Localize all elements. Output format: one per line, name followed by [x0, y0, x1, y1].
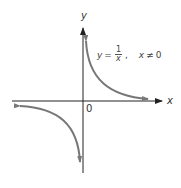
condition-op: ≠: [146, 50, 154, 60]
condition-var: x: [139, 50, 144, 60]
condition-val: 0: [156, 50, 162, 60]
origin-label: 0: [86, 104, 92, 114]
fraction-denominator: x: [116, 55, 121, 63]
equation-equals: =: [104, 50, 112, 60]
equation-fraction: 1 x: [115, 46, 122, 63]
hyperbola-graph: [0, 0, 181, 188]
y-axis-label: y: [81, 11, 87, 21]
curve-negative-branch: [20, 106, 80, 162]
equation-annotation: y = 1 x , x ≠ 0: [97, 46, 161, 63]
x-axis-label: x: [167, 96, 173, 106]
equation-separator: ,: [125, 50, 128, 60]
equation-lhs: y: [97, 50, 102, 60]
